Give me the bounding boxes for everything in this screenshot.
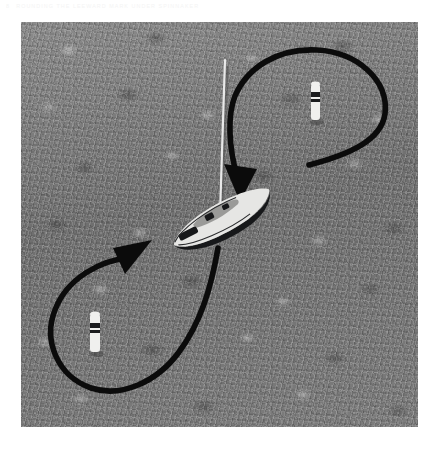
page-running-head: 8 Rounding the Leeward Mark Under Spinna… [6,1,426,10]
arrow-lower-head [113,240,152,274]
arrow-lower [51,240,218,391]
figure-vector-layer [21,22,418,427]
sailboat [166,60,280,262]
figure-panel [21,22,418,427]
running-title: Rounding the Leeward Mark Under Spinnake… [16,3,199,9]
arrow-upper [224,50,385,202]
buoy-lower [90,311,104,357]
buoy-upper [310,82,324,125]
page-number: 8 [6,3,9,9]
